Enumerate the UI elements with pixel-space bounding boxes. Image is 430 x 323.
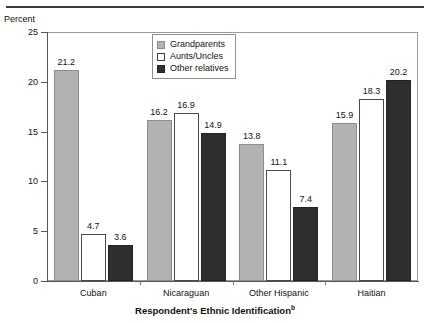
y-axis-tick-label: 0: [0, 277, 38, 286]
bar-value-label: 21.2: [48, 58, 85, 67]
x-axis-title: Respondent's Ethnic Identificationb: [0, 304, 430, 316]
bar: [359, 99, 384, 281]
bar-value-label: 20.2: [380, 68, 417, 77]
x-axis-title-text: Respondent's Ethnic Identification: [135, 305, 291, 316]
y-axis-tick-label: 25: [0, 28, 38, 37]
legend-swatch-grandparents: [157, 41, 165, 49]
bar: [266, 170, 291, 281]
bar-value-label: 3.6: [102, 233, 139, 242]
x-axis-group-label: Other Hispanic: [233, 288, 326, 298]
chart-legend: Grandparents Aunts/Uncles Other relative…: [152, 34, 236, 79]
x-axis-group-label: Nicaraguan: [140, 288, 233, 298]
bar-value-label: 15.9: [326, 111, 363, 120]
bar-value-label: 18.3: [353, 87, 390, 96]
x-axis-separator-tick: [233, 281, 234, 285]
legend-label-aunts-uncles: Aunts/Uncles: [170, 52, 223, 61]
legend-swatch-aunts-uncles: [157, 53, 165, 61]
x-axis-separator-tick: [325, 281, 326, 285]
legend-item-grandparents: Grandparents: [157, 39, 229, 50]
bar: [293, 207, 318, 281]
y-axis-tick-label: 5: [0, 227, 38, 236]
bar-chart: Percent 0510152025 21.24.73.616.216.914.…: [0, 0, 430, 323]
x-axis-title-superscript: b: [291, 304, 295, 311]
bar-value-label: 7.4: [287, 195, 324, 204]
legend-label-grandparents: Grandparents: [170, 40, 225, 49]
bar-value-label: 16.9: [168, 101, 205, 110]
x-axis-group-label: Cuban: [47, 288, 140, 298]
legend-item-aunts-uncles: Aunts/Uncles: [157, 51, 229, 62]
bar-value-label: 4.7: [75, 222, 112, 231]
y-axis-tick-label: 20: [0, 78, 38, 87]
y-axis-unit-label: Percent: [4, 14, 35, 24]
bar: [147, 120, 172, 281]
y-axis-tick-label: 15: [0, 128, 38, 137]
bar: [201, 133, 226, 281]
bar: [54, 70, 79, 281]
bar-value-label: 14.9: [195, 121, 232, 130]
legend-label-other-relatives: Other relatives: [170, 64, 229, 73]
y-axis-tick: [41, 281, 47, 282]
bar: [332, 123, 357, 281]
y-axis-tick-label: 10: [0, 177, 38, 186]
bar-value-label: 13.8: [233, 132, 270, 141]
bar: [386, 80, 411, 281]
bar: [174, 113, 199, 281]
bar: [108, 245, 133, 281]
x-axis-separator-tick: [140, 281, 141, 285]
header-divider: [6, 6, 424, 8]
legend-item-other-relatives: Other relatives: [157, 63, 229, 74]
bar-value-label: 11.1: [260, 158, 297, 167]
legend-swatch-other-relatives: [157, 65, 165, 73]
x-axis-group-label: Haitian: [325, 288, 418, 298]
